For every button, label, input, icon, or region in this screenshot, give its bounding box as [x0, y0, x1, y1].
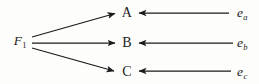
node-label-ec: ec	[237, 65, 247, 79]
edge-arrow-f1-to-c	[32, 48, 114, 71]
node-label-f1: F1	[14, 34, 27, 48]
node-label-b: B	[122, 36, 132, 50]
figure-canvas: F1ABCeaebec	[0, 0, 259, 84]
node-label-c-main: C	[122, 64, 132, 79]
node-label-eb: eb	[237, 36, 247, 50]
node-label-ea: ea	[237, 6, 247, 20]
node-label-a-main: A	[122, 5, 132, 20]
node-label-a: A	[122, 6, 132, 20]
node-label-ea-subscript: a	[243, 12, 247, 22]
node-label-b-main: B	[122, 35, 132, 50]
edge-arrow-f1-to-a	[32, 14, 115, 38]
node-label-ec-subscript: c	[243, 71, 247, 81]
node-label-eb-subscript: b	[243, 42, 247, 52]
node-label-f1-subscript: 1	[22, 40, 26, 50]
node-label-f1-main: F	[14, 33, 22, 48]
node-label-c: C	[122, 65, 132, 79]
